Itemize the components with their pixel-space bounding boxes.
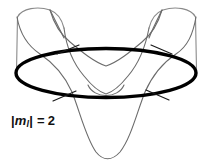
figure-canvas: |ml|=2 bbox=[0, 0, 212, 168]
orbital-diagram-svg bbox=[0, 0, 212, 168]
background-plate bbox=[0, 0, 212, 168]
